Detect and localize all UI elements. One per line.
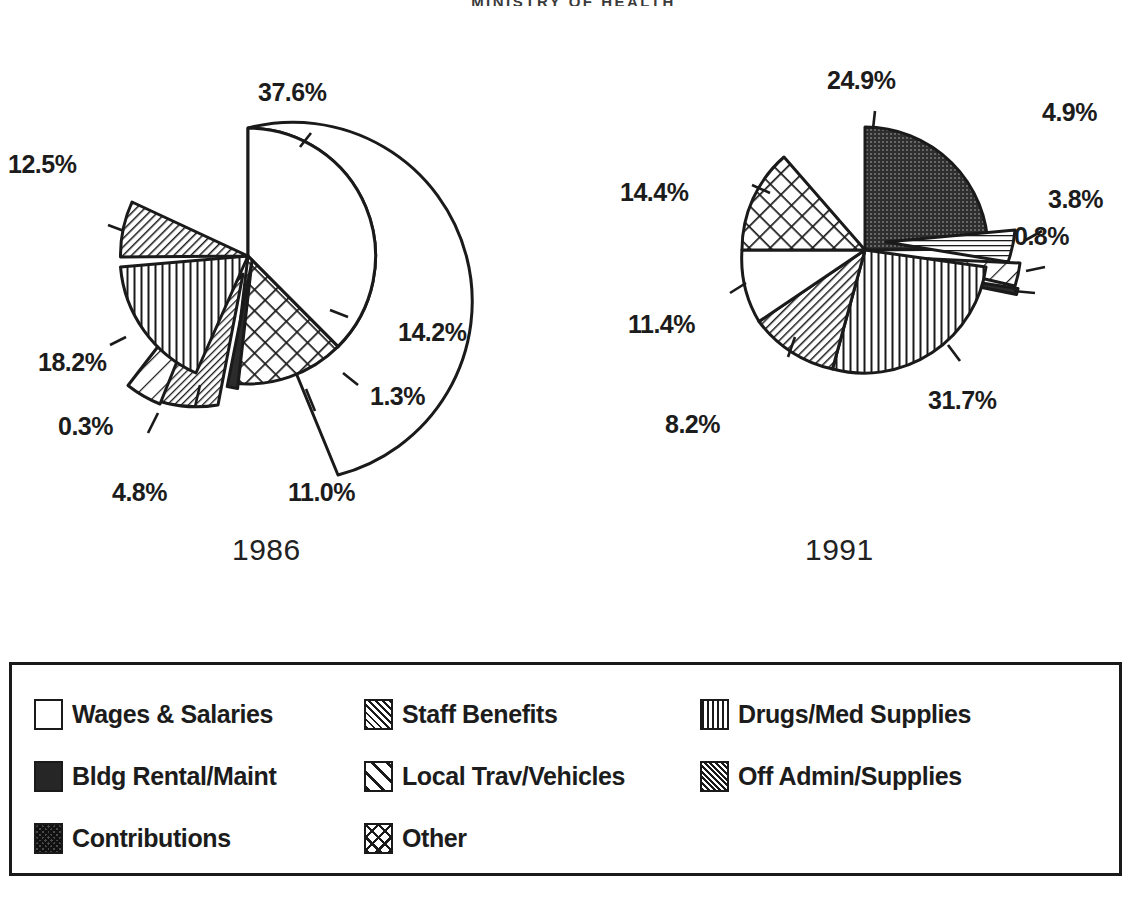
legend-label-local-travel: Local Trav/Vehicles (402, 762, 625, 791)
pct-label-1986-6: 1.3% (370, 382, 425, 411)
legend-item-contributions[interactable]: Contributions (34, 823, 364, 854)
legend-grid: Wages & Salaries Staff Benefits Drugs/Me… (34, 683, 1100, 869)
legend-label-wages: Wages & Salaries (72, 700, 273, 729)
pct-label-1986-0: 37.6% (258, 78, 326, 107)
figure-title: MINISTRY OF HEALTH (0, 0, 1147, 6)
legend-swatch-local-travel-icon (364, 761, 393, 792)
pct-label-1991-6: 11.4% (628, 310, 695, 339)
pct-label-1991-1: 4.9% (1042, 98, 1097, 127)
year-label-1986: 1986 (232, 533, 301, 567)
pct-label-1991-3: 0.8% (1014, 222, 1069, 251)
legend-label-other: Other (402, 824, 467, 853)
legend-swatch-staff-benefits-icon (364, 699, 393, 730)
legend-swatch-wages-icon (34, 699, 63, 730)
legend-label-drugs: Drugs/Med Supplies (738, 700, 971, 729)
pct-label-1991-4: 31.7% (928, 386, 996, 415)
pie-slice-bldg-rental-1991 (865, 127, 988, 250)
pct-label-1986-1: 12.5% (8, 150, 76, 179)
pct-label-1991-7: 14.4% (620, 178, 688, 207)
legend-swatch-contributions-icon (34, 823, 63, 854)
legend-label-bldg-rental: Bldg Rental/Maint (72, 762, 276, 791)
legend-item-local-travel[interactable]: Local Trav/Vehicles (364, 761, 700, 792)
pie-slice-staff-benefits-1986 (120, 202, 248, 257)
legend-swatch-off-admin-icon (700, 761, 729, 792)
legend-label-contributions: Contributions (72, 824, 231, 853)
legend-item-wages[interactable]: Wages & Salaries (34, 699, 364, 730)
legend-item-bldg-rental[interactable]: Bldg Rental/Maint (34, 761, 364, 792)
legend-item-other[interactable]: Other (364, 823, 700, 854)
pct-label-1991-2: 3.8% (1048, 185, 1103, 214)
legend-label-off-admin: Off Admin/Supplies (738, 762, 962, 791)
year-label-1991: 1991 (805, 533, 874, 567)
legend-item-staff-benefits[interactable]: Staff Benefits (364, 699, 700, 730)
legend-box: Wages & Salaries Staff Benefits Drugs/Me… (9, 662, 1122, 876)
pct-label-1986-3: 0.3% (58, 412, 113, 441)
legend-label-staff-benefits: Staff Benefits (402, 700, 558, 729)
pct-label-1986-2: 18.2% (38, 348, 106, 377)
legend-item-off-admin[interactable]: Off Admin/Supplies (700, 761, 1100, 792)
pct-label-1986-5: 11.0% (288, 478, 355, 507)
pct-label-1991-0: 24.9% (827, 66, 895, 95)
chart-root: MINISTRY OF HEALTH (0, 0, 1147, 897)
legend-swatch-other-icon (364, 823, 393, 854)
pct-label-1986-4: 4.8% (112, 478, 167, 507)
pct-label-1991-5: 8.2% (665, 410, 720, 439)
pie-slice-other-1991 (742, 157, 865, 250)
legend-swatch-bldg-rental-icon (34, 761, 63, 792)
legend-item-drugs[interactable]: Drugs/Med Supplies (700, 699, 1100, 730)
legend-swatch-drugs-icon (700, 699, 729, 730)
pct-label-1986-7: 14.2% (398, 318, 466, 347)
